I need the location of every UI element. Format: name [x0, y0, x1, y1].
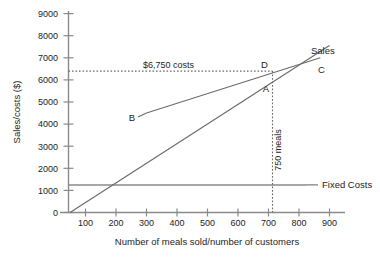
y-tick-label-1000: 1000: [38, 186, 58, 196]
point-label-d: D: [261, 59, 268, 70]
point-b-leader: [138, 113, 147, 117]
y-tick-label-3000: 3000: [38, 142, 58, 152]
sales-line: [70, 46, 330, 213]
sales-series-label: Sales: [311, 45, 335, 56]
point-label-a: A: [263, 83, 270, 94]
x-tick-label-900: 900: [322, 218, 337, 228]
y-tick-label-7000: 7000: [38, 53, 58, 63]
y-tick-label-9000: 9000: [38, 9, 58, 19]
y-tick-labels: 0 1000 2000 3000 4000 5000 6000 7000 800…: [38, 9, 58, 218]
chart-canvas: 0 1000 2000 3000 4000 5000 6000 7000 800…: [0, 0, 380, 260]
point-label-c: C: [318, 64, 325, 75]
x-tick-label-200: 200: [108, 218, 123, 228]
y-tick-label-8000: 8000: [38, 31, 58, 41]
y-tick-label-2000: 2000: [38, 164, 58, 174]
y-tick-label-0: 0: [53, 208, 58, 218]
fixed-costs-label: Fixed Costs: [322, 179, 372, 190]
point-label-b: B: [129, 112, 135, 123]
volume-annotation-label: 750 meals: [273, 129, 283, 171]
cost-annotation-label: $6,750 costs: [143, 60, 195, 70]
y-tick-label-5000: 5000: [38, 97, 58, 107]
x-tick-label-300: 300: [139, 218, 154, 228]
x-tick-label-800: 800: [291, 218, 306, 228]
y-axis-title: Sales/costs ($): [11, 81, 22, 144]
y-tick-label-6000: 6000: [38, 75, 58, 85]
x-tick-label-600: 600: [230, 218, 245, 228]
x-tick-label-100: 100: [78, 218, 93, 228]
x-tick-labels: 100 200 300 400 500 600 700 800 900: [78, 218, 337, 228]
x-axis-title: Number of meals sold/number of customers: [115, 236, 300, 247]
x-tick-label-400: 400: [169, 218, 184, 228]
breakeven-chart-figure: 0 1000 2000 3000 4000 5000 6000 7000 800…: [0, 0, 380, 260]
x-tick-label-700: 700: [261, 218, 276, 228]
x-tick-label-500: 500: [200, 218, 215, 228]
y-tick-label-4000: 4000: [38, 119, 58, 129]
